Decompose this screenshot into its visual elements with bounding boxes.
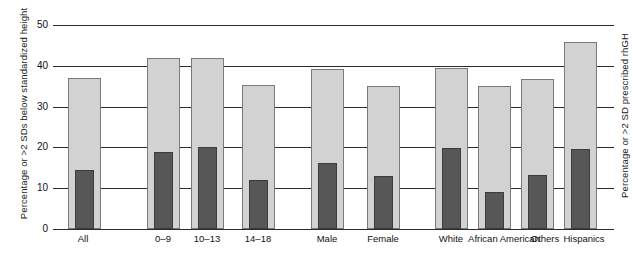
y-tick-mark-right-10 [600, 188, 614, 189]
bar-rhgh-male [318, 163, 337, 229]
x-axis-label-female: Female [367, 233, 399, 244]
x-axis-label-others: Others [531, 233, 560, 244]
x-axis-label-white: White [439, 233, 463, 244]
x-axis-label-all: All [78, 233, 89, 244]
x-axis-label-0-9: 0–9 [155, 233, 171, 244]
bar-rhgh-14-18 [249, 180, 268, 229]
bar-rhgh-0-9 [154, 152, 173, 229]
y-tick-mark-right-50 [600, 25, 614, 26]
y-tick-mark-50 [53, 25, 61, 26]
bar-chart: Percentage or >2 SDs below standardized … [0, 0, 633, 255]
bar-rhgh-african-american [485, 192, 504, 229]
bar-rhgh-hispanics [571, 149, 590, 229]
y-tick-mark-40 [53, 66, 61, 67]
bar-rhgh-10-13 [198, 147, 217, 229]
bar-rhgh-others [528, 175, 547, 229]
bar-rhgh-all [75, 170, 94, 229]
y-tick-label-0: 0 [22, 223, 48, 234]
y-tick-mark-10 [53, 188, 61, 189]
y-axis-title-right: Percentage or >2 SD prescribed rhGH [619, 1, 630, 231]
bar-rhgh-white [442, 148, 461, 229]
y-tick-label-40: 40 [22, 60, 48, 71]
x-axis-label-african-american: African American [468, 233, 540, 244]
y-tick-label-10: 10 [22, 182, 48, 193]
x-axis-label-14-18: 14–18 [245, 233, 271, 244]
y-axis-title-left: Percentage or >2 SDs below standardized … [18, 0, 29, 229]
y-tick-mark-20 [53, 147, 61, 148]
y-tick-label-50: 50 [22, 19, 48, 30]
x-axis-label-male: Male [317, 233, 338, 244]
y-tick-mark-right-30 [600, 107, 614, 108]
x-axis-label-hispanics: Hispanics [563, 233, 604, 244]
y-tick-label-30: 30 [22, 101, 48, 112]
bar-rhgh-female [374, 176, 393, 229]
y-tick-mark-30 [53, 107, 61, 108]
x-axis-line [53, 229, 600, 230]
gridline-40 [61, 66, 600, 67]
gridline-50 [61, 25, 600, 26]
y-tick-mark-right-0 [600, 229, 614, 230]
y-tick-mark-right-20 [600, 147, 614, 148]
y-tick-label-20: 20 [22, 141, 48, 152]
x-axis-label-10-13: 10–13 [194, 233, 220, 244]
y-tick-mark-right-40 [600, 66, 614, 67]
